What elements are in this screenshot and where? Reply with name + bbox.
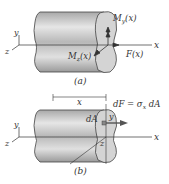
- y-axis-label-b: y: [13, 120, 19, 129]
- z-axis-label-b: z: [4, 139, 10, 148]
- z-axis-a: [12, 45, 19, 50]
- caption-b: (b): [74, 166, 87, 176]
- dimension-label-x: x: [77, 97, 82, 107]
- caption-a: (a): [74, 76, 87, 86]
- f-label: F(x): [125, 49, 143, 59]
- beam-diagram: x y z My(x) Mz(x) F(x) (a) x: [0, 0, 169, 184]
- beam-body-a: [34, 12, 104, 72]
- dF-label: dF = σx dA: [113, 99, 160, 110]
- y-axis-label-a: y: [13, 28, 19, 37]
- dA-label: dA: [86, 114, 98, 124]
- figure-b: x x y z dF = σx dA dA y z (b): [4, 94, 160, 176]
- figure-a: x y z My(x) Mz(x) F(x) (a): [4, 12, 159, 86]
- z-axis-b: [12, 137, 19, 142]
- z-axis-label-a: z: [4, 47, 10, 56]
- local-y-label: y: [108, 112, 114, 121]
- local-z-label: z: [99, 139, 105, 148]
- dA-element: [102, 121, 106, 125]
- mz-label: Mz(x): [67, 51, 91, 62]
- x-axis-label-a: x: [154, 40, 159, 50]
- x-axis-label-b: x: [154, 132, 159, 142]
- force-f-arrow-icon: [113, 43, 119, 47]
